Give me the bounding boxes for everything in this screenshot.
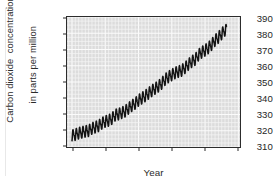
co2-data-line <box>67 17 240 147</box>
y-axis-tick-390: 390 <box>247 12 273 23</box>
x-tick-mark-1960 <box>72 148 73 151</box>
x-tick-mark-1980 <box>138 148 139 151</box>
y-axis-tick-380: 380 <box>247 28 273 39</box>
figure-co2-keeling-curve: Carbon dioxide concentration in parts pe… <box>0 0 273 184</box>
y-axis-label-line1: Carbon dioxide concentration <box>5 0 15 123</box>
x-axis-label: Year <box>46 167 261 178</box>
y-axis-tick-370: 370 <box>247 44 273 55</box>
x-tick-mark-1990 <box>171 148 172 151</box>
plot-area <box>66 16 241 148</box>
y-axis-tick-320: 320 <box>247 125 273 136</box>
x-tick-mark-2000 <box>204 148 205 151</box>
y-axis-tick-350: 350 <box>247 77 273 88</box>
y-axis-tick-330: 330 <box>247 109 273 120</box>
y-axis-label-line2: in parts per million <box>28 0 40 140</box>
x-tick-mark-2010 <box>237 148 238 151</box>
y-axis-tick-310: 310 <box>247 141 273 152</box>
x-tick-mark-1970 <box>105 148 106 151</box>
y-axis-label: Carbon dioxide concentration in parts pe… <box>0 0 63 140</box>
y-axis-tick-360: 360 <box>247 60 273 71</box>
y-axis-tick-340: 340 <box>247 93 273 104</box>
y-axis-tick-marks <box>0 148 66 184</box>
